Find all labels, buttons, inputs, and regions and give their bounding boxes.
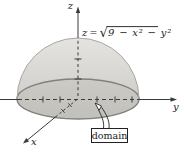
surface-equation: z = √ 9 − x² − y²: [81, 25, 172, 40]
x-axis-arrowhead: [23, 138, 29, 144]
z-axis-label: z: [67, 0, 74, 11]
y-axis-label: y: [172, 101, 179, 112]
z-axis-arrowhead: [76, 7, 80, 14]
equation-radicand: 9 − x² − y²: [108, 27, 172, 38]
hemisphere-figure: z y x z = √ 9 − x² − y² domain: [0, 0, 184, 156]
equation-equals: =: [90, 27, 98, 38]
domain-label: domain: [92, 130, 128, 141]
x-axis-label: x: [31, 136, 37, 147]
equation-lhs: z: [81, 27, 88, 38]
figure-canvas: z y x z = √ 9 − x² − y² domain: [0, 0, 184, 156]
